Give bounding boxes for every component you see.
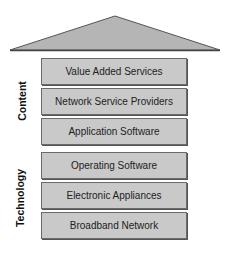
group-label-technology: Technology [14,168,26,228]
layer-network-service-providers: Network Service Providers [41,88,187,115]
group-label-content: Content [16,81,28,121]
roof-triangle [0,0,233,60]
layer-operating-software: Operating Software [41,152,187,179]
layer-electronic-appliances: Electronic Appliances [41,182,187,209]
layer-broadband-network: Broadband Network [41,212,187,239]
layer-application-software: Application Software [41,118,187,145]
layer-value-added-services: Value Added Services [41,58,187,85]
